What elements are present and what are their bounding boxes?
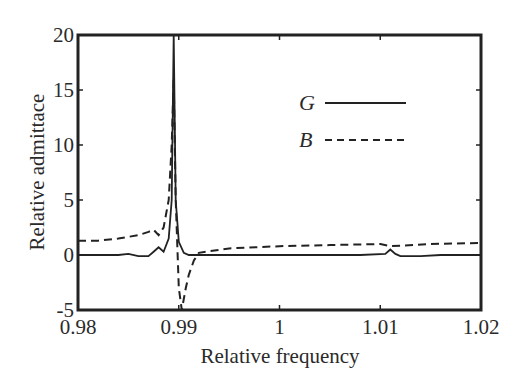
x-axis-title: Relative frequency	[200, 344, 360, 368]
legend-label-b: B	[299, 127, 312, 152]
admittance-chart: 0.980.9911.011.02-505101520 Relative fre…	[0, 0, 530, 385]
x-tick-label: 1.02	[463, 315, 500, 339]
legend: G B	[299, 90, 406, 152]
plot-frame	[78, 35, 481, 310]
y-tick-label: 15	[53, 78, 74, 102]
series-b-line	[78, 79, 481, 310]
axis-ticks	[78, 35, 481, 310]
legend-label-g: G	[299, 90, 315, 115]
tick-labels: 0.980.9911.011.02-505101520	[53, 23, 499, 339]
y-tick-label: 20	[53, 23, 74, 47]
y-tick-label: 0	[64, 243, 75, 267]
y-tick-label: -5	[57, 298, 75, 322]
x-tick-label: 1	[274, 315, 285, 339]
series-g-line	[78, 35, 481, 256]
plot-series	[78, 35, 481, 310]
y-tick-label: 5	[64, 188, 75, 212]
x-tick-label: 1.01	[362, 315, 399, 339]
x-tick-label: 0.99	[160, 315, 197, 339]
y-tick-label: 10	[53, 133, 74, 157]
y-axis-title: Relative admittace	[25, 94, 49, 251]
